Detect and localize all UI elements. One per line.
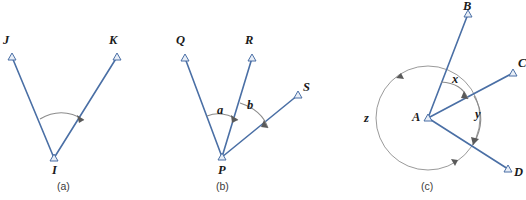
ray-AC [428,73,513,118]
point-marker-I [50,154,58,161]
angle-arc-x-arrowhead [461,91,468,99]
label-point-R: R [245,34,253,47]
angle-arc-y-arrowhead [471,137,479,145]
caption-panel-b: (b) [216,181,229,192]
label-point-I: I [52,164,57,177]
label-angle-b: b [247,99,253,112]
caption-panel-a: (a) [57,181,70,192]
label-point-D: D [514,166,523,179]
label-point-B: B [463,0,471,13]
geometry-figure: J K I (a) Q R S P a b (b) B C D A x y z … [0,0,526,200]
point-marker-C [509,69,517,76]
label-angle-y: y [475,108,481,121]
point-marker-A [424,114,432,121]
point-marker-Q [181,54,189,61]
point-marker-S [294,91,302,98]
label-point-J: J [3,34,9,47]
label-angle-x: x [452,73,458,86]
ray-IK [54,57,117,158]
label-angle-z: z [364,112,369,125]
point-marker-J [8,53,16,60]
label-point-P: P [218,164,226,177]
panel-b-graphics [181,54,302,160]
label-point-A: A [412,111,420,124]
reflex-arc-arrowhead-bottom [451,159,458,166]
panel-c-graphics [376,10,517,172]
ray-AD [428,118,508,169]
ray-IJ [12,57,54,158]
point-marker-R [248,54,256,61]
point-marker-D [504,165,512,172]
label-point-Q: Q [176,34,185,47]
label-angle-a: a [217,104,223,117]
label-point-C: C [518,57,526,70]
label-point-S: S [303,81,310,94]
ray-PS [222,95,298,157]
label-point-K: K [109,34,117,47]
panel-a-graphics [8,53,121,161]
caption-panel-c: (c) [421,181,433,192]
figure-canvas [0,0,526,200]
point-marker-K [113,53,121,60]
